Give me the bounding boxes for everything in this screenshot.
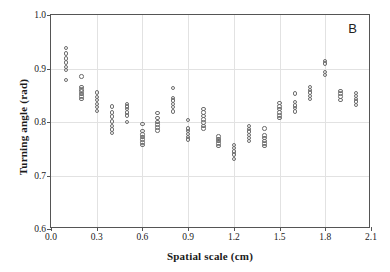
y-axis-title: Turning angle (rad) [17,52,29,202]
x-tick-label: 0.9 [182,232,194,242]
data-point [262,126,266,130]
panel-label: B [348,21,357,36]
x-tick [325,227,326,231]
data-point [79,97,83,101]
y-tick [47,15,51,16]
data-point [155,111,159,115]
plot-area: 0.60.70.80.91.0 0.00.30.60.91.21.51.82.1… [50,14,370,228]
data-point [110,119,114,123]
data-point [277,116,281,120]
y-tick [47,122,51,123]
data-point [110,131,114,135]
x-tick-label: 1.8 [319,232,331,242]
y-tick [47,69,51,70]
data-point [293,91,297,95]
x-tick-label: 0.0 [45,232,57,242]
data-point [125,113,129,117]
data-point [64,46,68,50]
data-point [216,144,220,148]
x-tick [97,227,98,231]
x-tick [188,227,189,231]
data-point [140,122,144,126]
data-point [110,104,114,108]
gridline-vertical [234,15,235,227]
y-tick-label: 0.9 [34,64,46,74]
x-tick-label: 1.5 [274,232,286,242]
gridline-vertical [325,15,326,227]
x-axis-title: Spatial scale (cm) [50,250,370,262]
data-point [64,68,68,72]
x-tick [51,227,52,231]
data-point [125,120,129,124]
x-tick [371,227,372,231]
data-point [171,86,175,90]
data-point [338,98,342,102]
gridline-horizontal [51,176,369,177]
data-point [186,137,190,141]
x-tick-label: 2.1 [365,232,377,242]
data-point [308,97,312,101]
data-point [323,61,327,65]
data-point [171,109,175,113]
gridline-vertical [280,15,281,227]
data-point [201,126,205,130]
data-point [95,109,99,113]
x-tick [142,227,143,231]
y-tick-label: 0.7 [34,171,46,181]
y-tick [47,176,51,177]
x-tick [280,227,281,231]
data-point [232,157,236,161]
data-point [262,144,266,148]
gridline-horizontal [51,122,369,123]
data-point [140,143,144,147]
data-point [64,78,68,82]
data-point [155,128,159,132]
data-point [293,109,297,113]
data-point [323,73,327,77]
y-tick-label: 0.8 [34,117,46,127]
x-tick-label: 0.6 [136,232,148,242]
data-point [79,74,83,78]
scatter-plot-figure: 0.60.70.80.91.0 0.00.30.60.91.21.51.82.1… [0,0,390,272]
data-point [110,114,114,118]
data-point [354,103,358,107]
x-tick [234,227,235,231]
x-tick-label: 1.2 [228,232,240,242]
data-point [64,51,68,55]
gridline-vertical [97,15,98,227]
y-tick-label: 1.0 [34,10,46,20]
gridline-horizontal [51,69,369,70]
x-tick-label: 0.3 [91,232,103,242]
data-point [247,139,251,143]
